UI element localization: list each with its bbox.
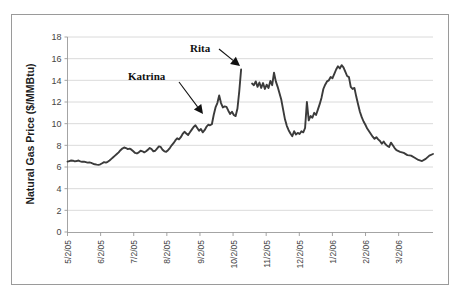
x-tick-label: 10/2/05 <box>229 240 239 269</box>
data-line-post-rita <box>252 65 433 161</box>
y-tick-label: 4 <box>56 184 61 194</box>
x-tick-label: 6/2/05 <box>96 240 106 264</box>
y-tick-label: 6 <box>56 162 61 172</box>
x-tick-label: 3/2/06 <box>394 240 404 264</box>
x-tick-label: 11/2/05 <box>262 240 272 268</box>
annotation-label-rita: Rita <box>190 42 211 54</box>
y-tick-label: 10 <box>51 119 61 129</box>
y-tick-label: 16 <box>51 54 61 64</box>
x-tick-label: 8/2/05 <box>162 240 172 264</box>
annotation-label-katrina: Katrina <box>128 70 166 82</box>
y-tick-label: 12 <box>51 97 61 107</box>
figure-container: 024681012141618 5/2/056/2/057/2/058/2/05… <box>0 0 461 300</box>
y-axis-tick-labels: 024681012141618 <box>51 32 61 237</box>
annotation-arrow-head-rita <box>230 57 240 66</box>
x-tick-label: 12/2/05 <box>295 240 305 269</box>
annotations-group: KatrinaRita <box>128 42 240 114</box>
annotation-arrow-shaft-katrina <box>179 82 198 107</box>
natural-gas-price-line-chart: 024681012141618 5/2/056/2/057/2/058/2/05… <box>0 0 461 300</box>
x-tick-label: 5/2/05 <box>63 240 73 264</box>
y-tick-label: 2 <box>56 206 61 216</box>
y-tick-label: 8 <box>56 141 61 151</box>
y-axis-title: Natural Gas Price ($/MMBtu) <box>24 63 36 204</box>
x-tick-label: 1/2/06 <box>328 240 338 264</box>
data-line-pre-rita <box>68 70 242 165</box>
x-tick-label: 7/2/05 <box>129 240 139 264</box>
y-tick-label: 14 <box>51 76 61 86</box>
gridlines-group <box>68 37 434 210</box>
x-tick-label: 9/2/05 <box>196 240 206 264</box>
y-tick-label: 18 <box>51 32 61 42</box>
x-tick-label: 2/2/06 <box>361 240 371 264</box>
annotation-arrow-head-katrina <box>194 104 203 114</box>
x-axis-tick-labels: 5/2/056/2/057/2/058/2/059/2/0510/2/0511/… <box>63 240 404 269</box>
y-tick-label: 0 <box>56 227 61 237</box>
